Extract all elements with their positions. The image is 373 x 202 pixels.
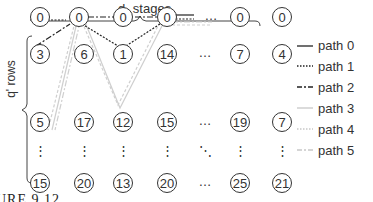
rows-label: q' rows bbox=[4, 60, 18, 98]
legend-item-path-5: path 5 bbox=[318, 143, 354, 158]
node-r1-c1: 6 bbox=[74, 44, 94, 64]
legend-item-path-2: path 2 bbox=[318, 80, 354, 95]
node-r0-c0: 0 bbox=[30, 7, 50, 27]
node-r1-c3: 14 bbox=[157, 44, 177, 64]
node-r2-c3: 15 bbox=[157, 112, 177, 132]
node-r1-c0: 3 bbox=[30, 44, 50, 64]
node-r0-c5: 0 bbox=[272, 7, 292, 27]
h-ellipsis: … bbox=[195, 113, 215, 128]
legend-item-path-4: path 4 bbox=[318, 122, 354, 137]
node-r3-c1: 20 bbox=[74, 173, 94, 193]
node-r0-c2: 0 bbox=[113, 7, 133, 27]
node-r2-c5: 7 bbox=[272, 112, 292, 132]
node-r3-c2: 13 bbox=[113, 173, 133, 193]
node-r3-c4: 25 bbox=[230, 173, 250, 193]
node-r0-c3: 0 bbox=[157, 7, 177, 27]
legend-item-path-0: path 0 bbox=[318, 38, 354, 53]
legend-item-path-1: path 1 bbox=[318, 59, 354, 74]
h-ellipsis: … bbox=[195, 174, 215, 189]
v-ellipsis: ⋮ bbox=[74, 143, 94, 158]
node-r2-c0: 5 bbox=[30, 112, 50, 132]
h-ellipsis: … bbox=[195, 45, 215, 60]
node-r1-c2: 1 bbox=[113, 44, 133, 64]
node-r0-c1: 0 bbox=[69, 7, 89, 27]
legend-item-path-3: path 3 bbox=[318, 101, 354, 116]
node-r2-c4: 19 bbox=[230, 112, 250, 132]
node-r0-c4: 0 bbox=[230, 7, 250, 27]
node-r1-c4: 7 bbox=[230, 44, 250, 64]
v-ellipsis: ⋮ bbox=[272, 143, 292, 158]
h-ellipsis: … bbox=[201, 8, 221, 23]
node-r2-c2: 12 bbox=[113, 112, 133, 132]
node-r3-c5: 21 bbox=[272, 173, 292, 193]
v-ellipsis: ⋮ bbox=[157, 143, 177, 158]
v-ellipsis: ⋮ bbox=[113, 143, 133, 158]
v-ellipsis: ⋮ bbox=[230, 143, 250, 158]
v-ellipsis: ⋮ bbox=[30, 143, 50, 158]
node-r1-c5: 4 bbox=[272, 44, 292, 64]
node-r3-c0: 15 bbox=[30, 173, 50, 193]
node-r3-c3: 20 bbox=[157, 173, 177, 193]
figure-caption: URE 9.12 bbox=[0, 192, 60, 202]
node-r2-c1: 17 bbox=[74, 112, 94, 132]
d-ellipsis: ⋱ bbox=[195, 143, 215, 158]
